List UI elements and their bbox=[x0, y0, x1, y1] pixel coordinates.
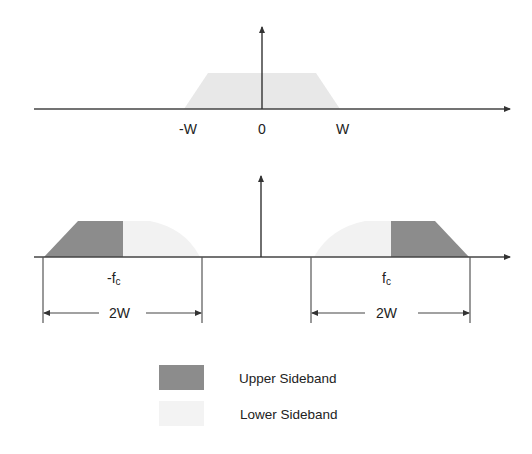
legend-swatch-lower bbox=[159, 401, 204, 426]
legend-label-lower: Lower Sideband bbox=[240, 408, 338, 422]
label-neg-fc-prefix: -f bbox=[107, 270, 116, 286]
legend-label-upper: Upper Sideband bbox=[239, 372, 337, 386]
right-lower-sideband bbox=[314, 221, 391, 257]
legend-swatch-upper bbox=[159, 365, 204, 390]
right-upper-sideband bbox=[391, 221, 469, 257]
label-pos-w: W bbox=[336, 122, 349, 136]
left-upper-sideband bbox=[44, 221, 123, 257]
label-right-bandwidth: 2W bbox=[376, 306, 397, 320]
left-lower-sideband bbox=[123, 221, 200, 257]
label-left-bandwidth: 2W bbox=[109, 306, 130, 320]
label-neg-fc: -fc bbox=[107, 271, 121, 287]
label-neg-w: -W bbox=[179, 122, 197, 136]
label-pos-fc: fc bbox=[382, 271, 391, 287]
label-neg-fc-sub: c bbox=[116, 276, 121, 287]
label-zero: 0 bbox=[258, 122, 266, 136]
label-pos-fc-sub: c bbox=[386, 276, 391, 287]
